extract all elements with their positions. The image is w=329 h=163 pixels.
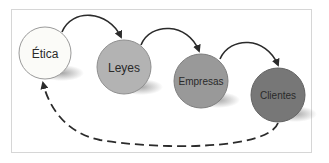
- node-clientes-label: Clientes: [260, 90, 296, 101]
- node-leyes: Leyes: [97, 40, 151, 94]
- cycle-diagram: Ética Leyes Empresas Clientes: [0, 0, 329, 163]
- node-leyes-label: Leyes: [108, 61, 140, 75]
- node-etica-label: Ética: [32, 46, 59, 61]
- arrow-empresas-clientes: [220, 42, 278, 65]
- node-empresas-label: Empresas: [178, 76, 223, 87]
- node-clientes: Clientes: [251, 68, 305, 122]
- arrow-etica-leyes: [62, 15, 121, 37]
- node-etica: Ética: [19, 27, 71, 79]
- node-empresas: Empresas: [174, 54, 228, 108]
- arrow-clientes-etica-dashed: [43, 83, 278, 146]
- arrow-leyes-empresas: [141, 28, 199, 51]
